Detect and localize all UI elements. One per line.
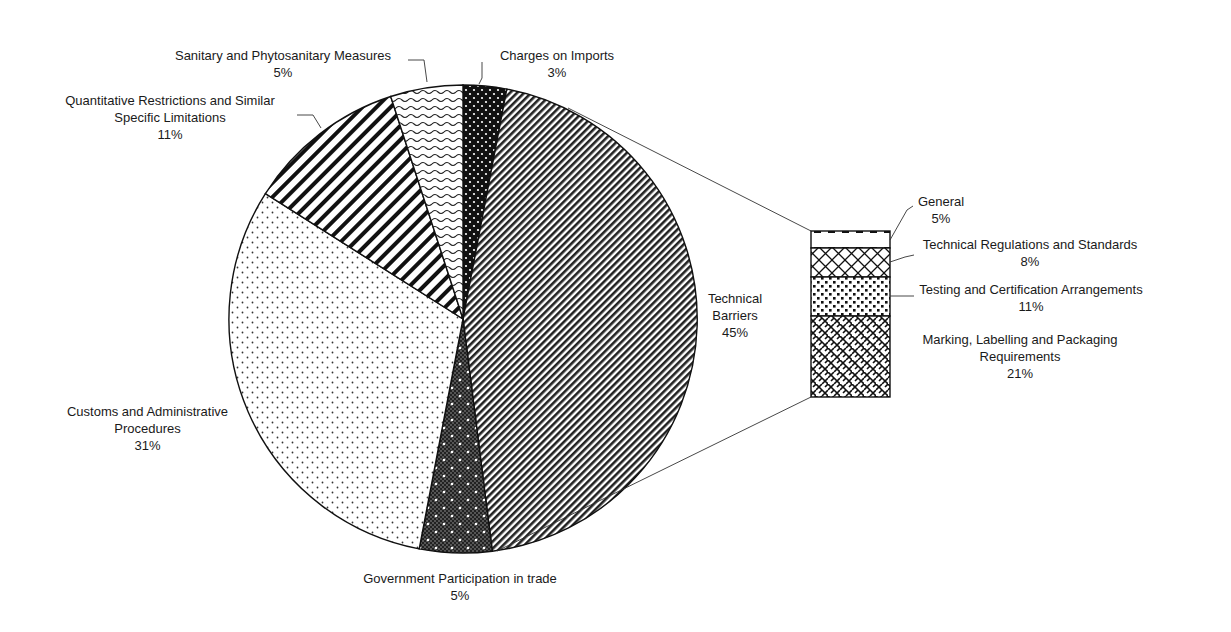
label-text: Technical Regulations and Standards bbox=[915, 236, 1145, 253]
label-text-2: Requirements bbox=[905, 348, 1135, 365]
label-quantitative-restrictions: Quantitative Restrictions and Similar Sp… bbox=[40, 92, 300, 143]
label-pct: 5% bbox=[910, 210, 972, 227]
label-pct: 8% bbox=[915, 253, 1145, 270]
label-text: Charges on Imports bbox=[482, 47, 632, 64]
segment-marking-labelling bbox=[811, 316, 890, 397]
label-pct: 31% bbox=[55, 437, 240, 454]
label-text: General bbox=[910, 193, 972, 210]
label-technical-barriers: Technical Barriers 45% bbox=[700, 290, 770, 341]
label-government-participation: Government Participation in trade 5% bbox=[340, 570, 580, 604]
label-pct: 21% bbox=[905, 365, 1135, 382]
label-text: Testing and Certification Arrangements bbox=[915, 281, 1147, 298]
label-pct: 45% bbox=[700, 324, 770, 341]
label-technical-regulations: Technical Regulations and Standards 8% bbox=[915, 236, 1145, 270]
label-pct: 11% bbox=[40, 126, 300, 143]
label-general: General 5% bbox=[910, 193, 972, 227]
pie bbox=[229, 85, 697, 553]
label-text-2: Procedures bbox=[55, 420, 240, 437]
segment-technical-regulations bbox=[811, 248, 890, 277]
label-pct: 3% bbox=[482, 64, 632, 81]
label-text: Quantitative Restrictions and Similar bbox=[40, 92, 300, 109]
label-pct: 5% bbox=[163, 64, 403, 81]
label-sanitary-phytosanitary: Sanitary and Phytosanitary Measures 5% bbox=[163, 47, 403, 81]
label-text: Technical bbox=[700, 290, 770, 307]
segment-general bbox=[811, 231, 890, 248]
label-text-2: Specific Limitations bbox=[40, 109, 300, 126]
label-pct: 11% bbox=[915, 298, 1147, 315]
label-text: Customs and Administrative bbox=[55, 403, 240, 420]
label-marking-labelling: Marking, Labelling and Packaging Require… bbox=[905, 331, 1135, 382]
label-customs-administrative: Customs and Administrative Procedures 31… bbox=[55, 403, 240, 454]
slice-technical-barriers bbox=[463, 89, 697, 551]
label-text: Marking, Labelling and Packaging bbox=[905, 331, 1135, 348]
label-text: Government Participation in trade bbox=[340, 570, 580, 587]
segment-testing-certification bbox=[811, 277, 890, 316]
label-testing-certification: Testing and Certification Arrangements 1… bbox=[915, 281, 1147, 315]
label-pct: 5% bbox=[340, 587, 580, 604]
label-text: Sanitary and Phytosanitary Measures bbox=[163, 47, 403, 64]
technical-barriers-breakdown-bar bbox=[811, 231, 890, 397]
label-charges-on-imports: Charges on Imports 3% bbox=[482, 47, 632, 81]
label-text-2: Barriers bbox=[700, 307, 770, 324]
